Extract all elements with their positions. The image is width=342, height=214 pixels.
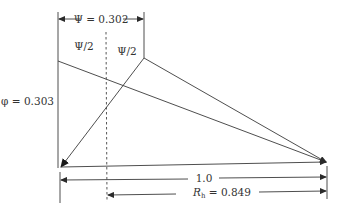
rh-arrow-right	[259, 191, 326, 192]
rh-arrow-left	[108, 194, 176, 195]
psi-half-right-label: Ψ/2	[117, 45, 136, 57]
psi-half-left-label: Ψ/2	[74, 40, 93, 52]
length-arrow-left	[61, 179, 188, 180]
vector-left-top-to-right	[58, 61, 326, 162]
length-arrow-right	[219, 177, 326, 178]
length-label: 1.0	[196, 172, 213, 184]
velocity-triangle-diagram: Ψ = 0.302 Ψ/2 Ψ/2 φ = 0.303 1.0 Rh = 0.8…	[0, 0, 342, 214]
rh-label: Rh = 0.849	[192, 186, 251, 200]
centerline-dashed	[106, 32, 107, 202]
phi-label: φ = 0.303	[1, 95, 54, 107]
vector-apex-to-left	[61, 58, 144, 167]
vector-apex-to-right	[144, 58, 326, 162]
psi-label: Ψ = 0.302	[74, 13, 129, 25]
vector-base	[61, 162, 326, 167]
